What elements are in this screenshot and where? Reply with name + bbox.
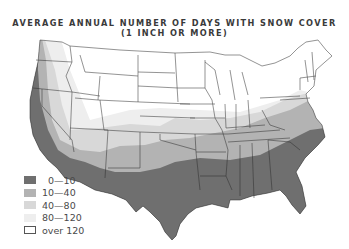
legend-item: over 120	[24, 224, 84, 237]
legend-swatch	[24, 189, 36, 197]
legend-item: 10—40	[24, 187, 84, 200]
legend-swatch	[24, 214, 36, 222]
legend-label: over 120	[42, 225, 84, 236]
legend-swatch	[24, 226, 36, 234]
legend-label: 40—80	[42, 200, 76, 211]
legend-swatch	[24, 176, 36, 184]
legend-item: 80—120	[24, 212, 84, 225]
legend-item: 40—80	[24, 199, 84, 212]
legend-swatch	[24, 201, 36, 209]
legend-label: 80—120	[42, 212, 82, 223]
legend-label: 0—10	[48, 175, 76, 186]
legend-item: 0—10	[24, 174, 84, 187]
legend: 0—10 10—40 40—80 80—120 over 120	[24, 174, 84, 237]
legend-label: 10—40	[42, 187, 76, 198]
